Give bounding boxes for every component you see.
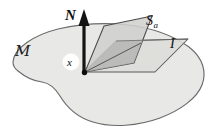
label-plane-s-a-symbol: S	[146, 13, 153, 28]
normal-arrow-head	[79, 9, 90, 26]
figure-canvas: N Sa I x M	[0, 0, 217, 129]
label-plane-s-a-subscript: a	[154, 20, 159, 30]
manifold-tangent-plane-figure: N Sa I x M	[0, 0, 217, 129]
label-normal-vector: N	[64, 7, 77, 23]
label-plane-s-a: Sa	[146, 13, 159, 30]
label-base-point: x	[66, 56, 72, 68]
base-point-dot	[82, 70, 87, 75]
label-manifold: M	[14, 42, 31, 60]
